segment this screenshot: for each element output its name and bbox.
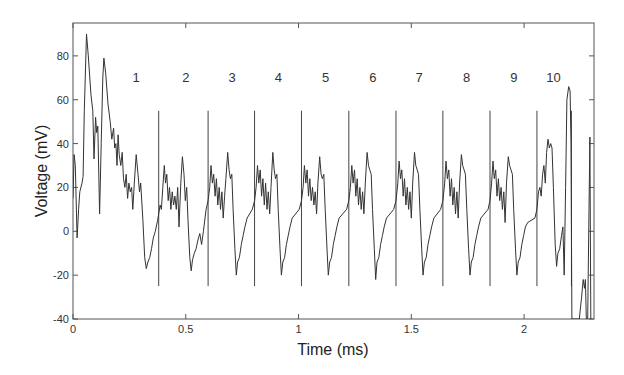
spike-label: 5 [322, 70, 329, 85]
y-tick-label: 40 [57, 138, 69, 150]
spike-label: 9 [510, 70, 517, 85]
x-tick-label: 0 [70, 323, 76, 335]
spike-label: 4 [275, 70, 282, 85]
x-tick-label: 1.5 [404, 323, 419, 335]
x-tick-label: 2 [521, 323, 527, 335]
y-tick-label: -20 [53, 269, 69, 281]
y-tick-label: 20 [57, 181, 69, 193]
x-axis-title: Time (ms) [297, 341, 368, 358]
spike-label: 6 [369, 70, 376, 85]
plot-frame [73, 23, 594, 319]
x-tick-label: 0.5 [178, 323, 193, 335]
spike-label: 8 [463, 70, 470, 85]
y-tick-label: 80 [57, 50, 69, 62]
y-tick-label: 60 [57, 94, 69, 106]
voltage-chart: -40-20020406080 00.511.52 12345678910 Ti… [0, 0, 624, 375]
spike-label: 2 [182, 70, 189, 85]
spike-label: 7 [416, 70, 423, 85]
y-axis-title: Voltage (mV) [33, 125, 50, 217]
y-tick-label: 0 [63, 225, 69, 237]
y-tick-label: -40 [53, 313, 69, 325]
spike-label: 1 [133, 70, 140, 85]
x-tick-label: 1 [295, 323, 301, 335]
spike-label: 3 [228, 70, 235, 85]
spike-label: 10 [546, 70, 560, 85]
